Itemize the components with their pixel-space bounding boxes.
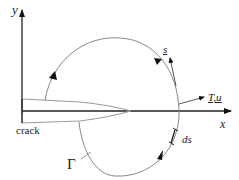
contour-gamma-label: Γ <box>67 157 76 172</box>
y-axis-label: y <box>12 3 18 16</box>
contour-arrow-left <box>49 71 57 80</box>
traction-label: T,u <box>208 92 222 103</box>
traction-vector <box>179 97 204 104</box>
tangent-vector-s <box>170 58 176 86</box>
contour-arrow-upper-right <box>154 58 162 65</box>
tangent-s-label: s <box>163 44 167 55</box>
contour-arrow-lower-right <box>157 150 163 160</box>
crack-label: crack <box>16 125 40 136</box>
x-axis-label: x <box>220 118 225 130</box>
ds-label: ds <box>182 134 192 145</box>
j-integral-diagram <box>0 0 239 180</box>
